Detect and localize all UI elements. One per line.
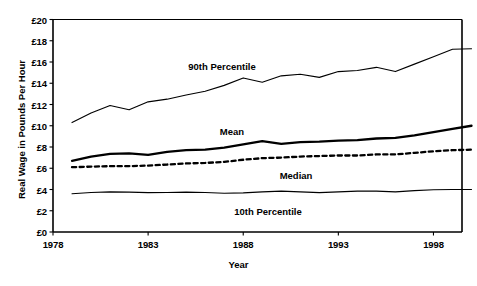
series-line-mean: [72, 126, 471, 161]
series-label-median: Median: [280, 170, 313, 181]
series-line-90th-percentile: [72, 49, 471, 123]
chart-figure: £0£2£4£6£8£10£12£14£16£18£20 19781983198…: [0, 0, 477, 286]
x-tick-label: 1998: [423, 239, 444, 250]
series-label-mean: Mean: [220, 126, 244, 137]
y-tick-label: £20: [0, 14, 47, 25]
series-line-median: [72, 150, 471, 168]
series-label-10th-percentile: 10th Percentile: [234, 206, 302, 217]
x-tick-label: 1988: [233, 239, 254, 250]
x-axis-title: Year: [0, 259, 477, 270]
x-tick-label: 1993: [328, 239, 349, 250]
series-line-10th-percentile: [72, 190, 471, 194]
x-tick-label: 1983: [138, 239, 159, 250]
series-label-90th-percentile: 90th Percentile: [188, 61, 256, 72]
x-tick-label: 1978: [43, 239, 64, 250]
y-axis-title: Real Wage in Pounds Per Hour: [16, 30, 27, 230]
plot-frame: [53, 20, 462, 233]
data-series-group: [72, 49, 471, 194]
